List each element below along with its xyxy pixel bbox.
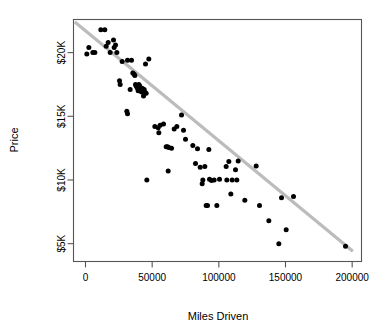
data-point bbox=[254, 163, 259, 168]
data-point bbox=[129, 58, 134, 63]
data-point bbox=[217, 177, 222, 182]
data-point bbox=[198, 165, 203, 170]
y-tick-label: $10K bbox=[56, 168, 67, 192]
x-tick-label: 50000 bbox=[138, 272, 166, 283]
data-point bbox=[193, 161, 198, 166]
data-point bbox=[111, 37, 116, 42]
chart-canvas: $5K$10K$15K$20K 050000100000150000200000… bbox=[0, 0, 391, 334]
data-point bbox=[84, 51, 89, 56]
data-point bbox=[242, 198, 247, 203]
data-point bbox=[161, 121, 166, 126]
data-point bbox=[113, 42, 118, 47]
x-tick-label: 100000 bbox=[202, 272, 236, 283]
data-point bbox=[202, 164, 207, 169]
y-tick-label: $15K bbox=[56, 104, 67, 128]
data-point bbox=[92, 50, 97, 55]
data-point bbox=[118, 82, 123, 87]
data-point bbox=[228, 191, 233, 196]
data-point bbox=[144, 177, 149, 182]
data-point bbox=[166, 169, 171, 174]
data-point bbox=[266, 218, 271, 223]
data-point bbox=[190, 143, 195, 148]
x-axis-ticks: 050000100000150000200000 bbox=[83, 262, 370, 283]
data-point bbox=[212, 177, 217, 182]
x-tick-label: 0 bbox=[83, 272, 89, 283]
y-axis-title: Price bbox=[8, 127, 20, 152]
y-axis-ticks: $5K$10K$15K$20K bbox=[56, 41, 74, 253]
data-point bbox=[174, 124, 179, 129]
y-tick-label: $5K bbox=[56, 234, 67, 252]
x-tick-label: 200000 bbox=[335, 272, 369, 283]
y-tick-label: $20K bbox=[56, 41, 67, 65]
data-point bbox=[206, 147, 211, 152]
regression-trend-line bbox=[75, 22, 353, 251]
data-point bbox=[284, 227, 289, 232]
data-point bbox=[183, 137, 188, 142]
data-point bbox=[86, 45, 91, 50]
data-point bbox=[205, 203, 210, 208]
data-point bbox=[226, 159, 231, 164]
data-point bbox=[143, 62, 148, 67]
data-point bbox=[279, 195, 284, 200]
data-point bbox=[224, 177, 229, 182]
data-point bbox=[108, 50, 113, 55]
trend-line-group bbox=[75, 22, 353, 251]
data-point bbox=[200, 177, 205, 182]
x-tick-label: 150000 bbox=[269, 272, 303, 283]
data-point bbox=[120, 59, 125, 64]
data-point bbox=[114, 50, 119, 55]
data-point bbox=[230, 177, 235, 182]
x-axis-title: Miles Driven bbox=[188, 310, 249, 322]
data-point bbox=[233, 167, 238, 172]
data-point bbox=[132, 73, 137, 78]
data-point bbox=[224, 164, 229, 169]
data-point bbox=[125, 111, 130, 116]
data-point bbox=[291, 194, 296, 199]
data-point bbox=[236, 158, 241, 163]
data-point bbox=[128, 87, 133, 92]
data-point bbox=[146, 56, 151, 61]
data-point bbox=[144, 91, 149, 96]
data-point bbox=[106, 40, 111, 45]
data-point bbox=[181, 128, 186, 133]
data-point bbox=[257, 203, 262, 208]
data-point bbox=[214, 203, 219, 208]
data-point bbox=[169, 146, 174, 151]
scatter-chart: $5K$10K$15K$20K 050000100000150000200000… bbox=[0, 0, 391, 334]
data-point bbox=[195, 146, 200, 151]
data-point bbox=[234, 177, 239, 182]
data-point bbox=[179, 113, 184, 118]
data-point bbox=[343, 244, 348, 249]
data-point bbox=[102, 27, 107, 32]
data-point bbox=[276, 241, 281, 246]
data-point bbox=[156, 130, 161, 135]
